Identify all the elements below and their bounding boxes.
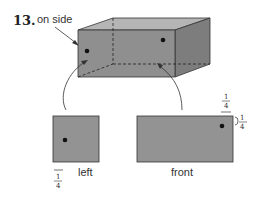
front-fraction-side-den: 4 [240, 123, 245, 131]
rectangular-prism [78, 18, 210, 77]
callout-label: on side [37, 13, 72, 25]
left-view: 1 4 left [53, 116, 99, 190]
front-view: 1 4 1 4 front [137, 93, 247, 178]
left-fraction-den: 4 [56, 182, 61, 190]
left-view-label: left [78, 166, 93, 178]
front-face [78, 30, 175, 77]
front-fraction-top-den: 4 [224, 102, 229, 110]
left-view-dot [63, 138, 68, 143]
front-view-dot [220, 124, 225, 129]
front-fraction-top-num: 1 [224, 93, 228, 101]
callout-arrow [55, 27, 79, 46]
problem-number: 13. [13, 13, 36, 28]
diagram-canvas: 13. on side 1 4 left 1 4 [0, 0, 255, 200]
front-dot [161, 38, 166, 43]
side-dot [85, 49, 90, 54]
left-fraction-num: 1 [56, 173, 60, 181]
front-view-label: front [171, 166, 193, 178]
front-fraction-side-num: 1 [240, 114, 244, 122]
